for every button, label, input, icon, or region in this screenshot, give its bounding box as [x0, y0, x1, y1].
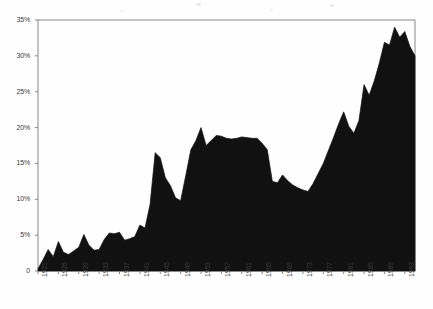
- x-tick-label: 1981: [347, 262, 354, 277]
- y-tick-label: 35%: [2, 16, 30, 23]
- y-tick-label: 0: [2, 267, 30, 274]
- x-tick-label: 1949: [184, 262, 191, 277]
- area-fill: [38, 27, 415, 271]
- y-tick-label: 25%: [2, 88, 30, 95]
- x-tick-label: 1929: [82, 262, 89, 277]
- x-tick-label: 1961: [245, 262, 252, 277]
- x-tick-label: 1957: [224, 262, 231, 277]
- x-tick-label: 1993: [408, 262, 415, 277]
- area-series: [38, 27, 415, 271]
- x-tick-label: 1933: [102, 262, 109, 277]
- x-tick-label: 1977: [326, 262, 333, 277]
- y-tick-label: 20%: [2, 124, 30, 131]
- x-tick-label: 1945: [163, 262, 170, 277]
- x-tick-label: 1953: [204, 262, 211, 277]
- y-tick-label: 10%: [2, 195, 30, 202]
- y-tick-label: 5%: [2, 231, 30, 238]
- x-tick-label: 1985: [367, 262, 374, 277]
- y-tick-label: 30%: [2, 52, 30, 59]
- y-tick-label: 15%: [2, 159, 30, 166]
- x-tick-label: 1989: [387, 262, 394, 277]
- x-tick-label: 1937: [123, 262, 130, 277]
- x-tick-label: 1941: [143, 262, 150, 277]
- chart-figure: 05%10%15%20%25%30%35% 192119251929193319…: [0, 0, 433, 309]
- x-tick-label: 1965: [265, 262, 272, 277]
- x-tick-label: 1925: [61, 262, 68, 277]
- x-tick-label: 1969: [286, 262, 293, 277]
- x-tick-label: 1921: [41, 262, 48, 277]
- x-tick-label: 1973: [306, 262, 313, 277]
